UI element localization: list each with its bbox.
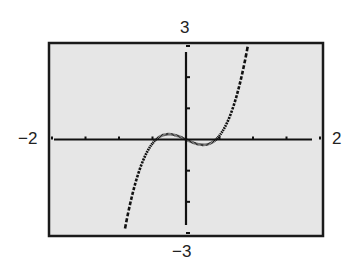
graph-screen (0, 0, 356, 259)
